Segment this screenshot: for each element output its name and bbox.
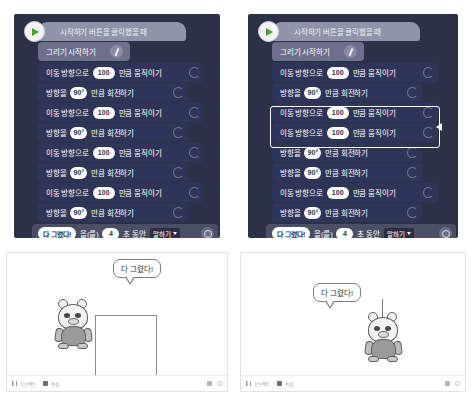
- block-loop-icon: [407, 87, 418, 98]
- move-value-input[interactable]: 100: [93, 147, 115, 159]
- gear-icon[interactable]: [201, 227, 214, 238]
- move-value-input[interactable]: 100: [327, 187, 349, 199]
- right-stage-toolbar[interactable]: 오브젝트 속성: [241, 375, 465, 391]
- move-value-input[interactable]: 100: [327, 67, 349, 79]
- right-toolbar-right-icons[interactable]: [445, 381, 460, 386]
- grid-icon[interactable]: [207, 381, 212, 386]
- left-speech-bubble: 다 그렸다!: [113, 259, 161, 278]
- block-prefix: 방향을: [46, 207, 66, 218]
- green-flag-play-icon[interactable]: [258, 21, 279, 42]
- block-loop-icon: [423, 127, 434, 138]
- right-pen-start-block[interactable]: 그리기 시작하기: [272, 42, 364, 61]
- block-suffix: 만큼 움직이기: [353, 127, 396, 138]
- left-block-stack: 시작하기 버튼을 클릭했을 때 그리기 시작하기 이동 방향으로 100 만큼 …: [24, 22, 218, 238]
- say-message-input[interactable]: 다 그렸다!: [38, 227, 76, 238]
- left-say-block[interactable]: 다 그렸다! 을(를) 4 초 동안 말하기: [32, 224, 218, 238]
- left-turn-block-2[interactable]: 방향을 90° 만큼 회전하기: [38, 123, 188, 142]
- move-value-input[interactable]: 100: [327, 127, 349, 139]
- block-prefix: 방향을: [280, 167, 300, 178]
- block-loop-icon: [189, 67, 200, 78]
- block-suffix: 만큼 회전하기: [325, 87, 368, 98]
- turn-value-input[interactable]: 90°: [70, 127, 87, 139]
- right-move-block-2-selected[interactable]: 이동 방향으로 100 만큼 움직이기: [272, 103, 438, 122]
- say-mode-dropdown[interactable]: 말하기: [384, 228, 414, 239]
- move-value-input[interactable]: 100: [93, 187, 115, 199]
- block-loop-icon: [173, 127, 184, 138]
- block-suffix: 만큼 회전하기: [91, 127, 134, 138]
- left-hat-block[interactable]: 시작하기 버튼을 클릭했을 때: [38, 22, 186, 41]
- square-icon: [43, 381, 48, 386]
- move-value-input[interactable]: 100: [327, 107, 349, 119]
- left-toolbar-group-objects[interactable]: 오브젝트: [12, 381, 36, 387]
- turn-value-input[interactable]: 90°: [304, 147, 321, 159]
- say-seconds-input[interactable]: 4: [336, 228, 353, 239]
- grid-icon[interactable]: [445, 381, 450, 386]
- fullscreen-icon[interactable]: [217, 381, 222, 386]
- gear-icon[interactable]: [439, 227, 452, 238]
- right-move-block-3-selected[interactable]: 이동 방향으로 100 만큼 움직이기: [272, 123, 438, 142]
- turn-value-input[interactable]: 90°: [304, 167, 321, 179]
- turn-value-input[interactable]: 90°: [304, 87, 321, 99]
- right-move-block-1[interactable]: 이동 방향으로 100 만큼 움직이기: [272, 63, 438, 82]
- chevron-down-icon: [173, 232, 177, 235]
- foot-left: [58, 343, 69, 349]
- left-move-block-1[interactable]: 이동 방향으로 100 만큼 움직이기: [38, 63, 204, 82]
- left-stage-canvas[interactable]: 다 그렸다! 오브젝트: [7, 253, 227, 391]
- green-flag-play-icon[interactable]: [24, 21, 45, 42]
- right-block-workspace[interactable]: 시작하기 버튼을 클릭했을 때 그리기 시작하기 이동 방향으로 100 만큼 …: [248, 14, 458, 238]
- say-mode-value: 말하기: [387, 229, 405, 239]
- left-stage-toolbar[interactable]: 오브젝트 속성: [7, 375, 227, 391]
- eye-left: [374, 326, 380, 331]
- right-turn-block-4[interactable]: 방향을 90° 만큼 회전하기: [272, 203, 422, 222]
- block-prefix: 이동 방향으로: [280, 187, 323, 198]
- turn-value-input[interactable]: 90°: [70, 167, 87, 179]
- left-move-block-2[interactable]: 이동 방향으로 100 만큼 움직이기: [38, 103, 204, 122]
- left-toolbar-right-icons[interactable]: [207, 381, 222, 386]
- right-move-block-4[interactable]: 이동 방향으로 100 만큼 움직이기: [272, 183, 438, 202]
- block-prefix: 이동 방향으로: [46, 147, 89, 158]
- block-loop-icon: [189, 107, 200, 118]
- left-turn-block-4[interactable]: 방향을 90° 만큼 회전하기: [38, 203, 188, 222]
- block-suffix: 만큼 회전하기: [91, 87, 134, 98]
- left-turn-block-1[interactable]: 방향을 90° 만큼 회전하기: [38, 83, 188, 102]
- eye-right: [385, 326, 391, 331]
- left-character-entrybot[interactable]: [55, 298, 93, 350]
- right-hat-label: 시작하기 버튼을 클릭했을 때: [294, 26, 381, 37]
- block-loop-icon: [423, 187, 434, 198]
- right-toolbar-group-objects[interactable]: 오브젝트: [246, 381, 270, 387]
- right-turn-block-2[interactable]: 방향을 90° 만큼 회전하기: [272, 143, 422, 162]
- right-stage-canvas[interactable]: 다 그렸다! 오브젝트: [241, 253, 465, 391]
- say-message-input[interactable]: 다 그렸다!: [272, 227, 310, 238]
- turn-value-input[interactable]: 90°: [70, 207, 87, 219]
- move-value-input[interactable]: 100: [93, 67, 115, 79]
- turn-value-input[interactable]: 90°: [70, 87, 87, 99]
- right-hat-block[interactable]: 시작하기 버튼을 클릭했을 때: [272, 22, 420, 41]
- foot-left: [368, 356, 379, 362]
- left-move-block-4[interactable]: 이동 방향으로 100 만큼 움직이기: [38, 183, 204, 202]
- say-seconds-input[interactable]: 4: [102, 228, 119, 239]
- turn-value-input[interactable]: 90°: [304, 207, 321, 219]
- left-turn-block-3[interactable]: 방향을 90° 만큼 회전하기: [38, 163, 188, 182]
- left-move-block-3[interactable]: 이동 방향으로 100 만큼 움직이기: [38, 143, 204, 162]
- right-toolbar-group-properties[interactable]: 속성: [277, 381, 293, 387]
- left-pen-start-block[interactable]: 그리기 시작하기: [38, 42, 130, 61]
- right-turn-block-1[interactable]: 방향을 90° 만큼 회전하기: [272, 83, 422, 102]
- block-loop-icon: [423, 67, 434, 78]
- eye-left: [64, 313, 70, 318]
- move-value-input[interactable]: 100: [93, 107, 115, 119]
- pen-icon: [110, 45, 123, 58]
- block-suffix: 만큼 회전하기: [325, 207, 368, 218]
- fullscreen-icon[interactable]: [455, 381, 460, 386]
- right-say-block[interactable]: 다 그렸다! 을(를) 4 초 동안 말하기: [266, 224, 456, 238]
- right-turn-block-3[interactable]: 방향을 90° 만큼 회전하기: [272, 163, 422, 182]
- panel-right-stage: 다 그렸다! 오브젝트: [240, 252, 466, 392]
- list-icon: [12, 381, 17, 386]
- eye-right: [75, 313, 81, 318]
- left-toolbar-group-properties[interactable]: 속성: [43, 381, 59, 387]
- left-block-workspace[interactable]: 시작하기 버튼을 클릭했을 때 그리기 시작하기 이동 방향으로 100 만큼 …: [14, 14, 220, 238]
- right-speech-text: 다 그렸다!: [321, 289, 353, 298]
- block-loop-icon: [173, 167, 184, 178]
- block-loop-icon: [423, 107, 434, 118]
- right-character-entrybot[interactable]: [365, 311, 403, 363]
- say-mode-dropdown[interactable]: 말하기: [150, 228, 180, 239]
